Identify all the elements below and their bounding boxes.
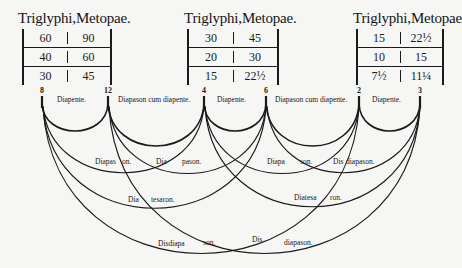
arc-label-12-3-part1: Dis xyxy=(252,235,262,244)
arc-6-2 xyxy=(266,104,359,146)
arc-label-8-2-part2: son. xyxy=(203,238,215,247)
arc-label-8-2-part1: Disdiapa xyxy=(158,239,185,248)
arc-label-6-3-part2: diapason. xyxy=(346,157,375,166)
arc-label-4-2-part1: Diapa xyxy=(267,157,285,166)
arc-12-4 xyxy=(108,104,204,146)
arc-label-8-12: Diapente. xyxy=(57,95,86,104)
arc-6-3 xyxy=(267,106,420,173)
arc-8-2 xyxy=(43,108,359,254)
arc-label-4-3-part1: Diatesa xyxy=(294,193,317,202)
arc-label-8-4-part1: Diapas xyxy=(95,157,116,166)
arc-label-2-3: Diapente. xyxy=(372,95,401,104)
arc-label-6-2: Diapason cum diapente. xyxy=(275,95,347,104)
arc-label-8-6-part2: tesaron. xyxy=(151,195,175,204)
arc-label-12-6-part1: Dia xyxy=(156,157,167,166)
diagram-page: Triglyphi,Metopae. 60 90 40 60 30 45 Tri… xyxy=(0,0,462,268)
arc-label-8-4-part2: on. xyxy=(122,157,131,166)
arc-label-6-3-part1: Dis xyxy=(333,157,343,166)
arc-label-12-6-part2: pason. xyxy=(182,157,201,166)
arc-label-4-2-part2: son. xyxy=(300,157,312,166)
interval-arcs xyxy=(0,0,462,268)
arc-4-6 xyxy=(204,104,266,131)
arc-2-3 xyxy=(359,104,420,131)
arc-label-4-3-part2: ron. xyxy=(330,193,342,202)
arc-12-3 xyxy=(109,108,420,254)
arc-label-4-6: Diapente. xyxy=(217,95,246,104)
arc-4-3 xyxy=(205,107,420,207)
arc-label-12-4: Diapason cum diapente. xyxy=(118,95,190,104)
arc-8-12 xyxy=(42,104,108,131)
arc-label-12-3-part2: diapason. xyxy=(284,238,313,247)
arc-label-8-6-part1: Dia xyxy=(128,195,139,204)
